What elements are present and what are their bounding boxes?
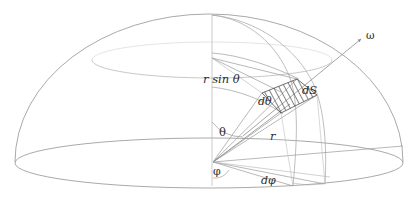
label-d-theta: dθ (258, 96, 272, 107)
label-d-phi: dφ (261, 175, 276, 186)
dome-arc (15, 14, 403, 162)
hemisphere-outline (15, 14, 403, 188)
dropper-near (281, 113, 293, 186)
theta-angle-arc (212, 122, 243, 137)
label-r: r (270, 131, 276, 143)
phi-construction (213, 146, 403, 186)
hemisphere-diagram-svg (0, 0, 418, 210)
phi-reference-line (213, 146, 403, 162)
label-omega: ω (366, 30, 375, 41)
solid-angle-figure: r sin θ dS dθ θ r φ dφ ω (0, 0, 418, 210)
label-theta: θ (219, 127, 226, 139)
theta-angle (212, 122, 243, 137)
phi-ray-near (213, 162, 293, 186)
base-ellipse (15, 138, 403, 188)
label-phi: φ (213, 166, 221, 177)
label-r-sin-theta: r sin θ (203, 74, 240, 86)
label-dS: dS (302, 85, 317, 97)
